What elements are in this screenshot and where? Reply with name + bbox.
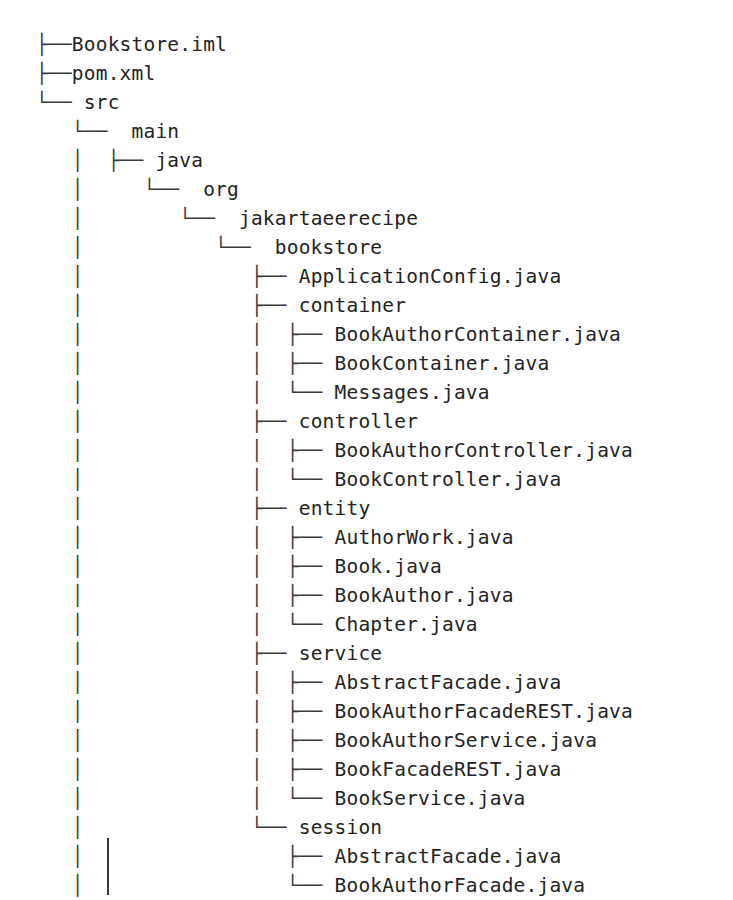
tree-node-file[interactable]: │ │ ├── BookAuthorController.java <box>36 436 633 465</box>
tree-node-label: BookAuthorFacadeREST.java <box>323 700 633 723</box>
tree-node-file[interactable]: │ │ ├── Book.java <box>36 552 442 581</box>
tree-node-label: AbstractFacade.java <box>323 671 562 694</box>
tree-node-file[interactable]: │ │ └── BookController.java <box>36 465 561 494</box>
tree-node-label: AbstractFacade.java <box>323 845 562 868</box>
tree-connector: │ │ ├── <box>36 729 323 752</box>
tree-node-file[interactable]: │ ├── ApplicationConfig.java <box>36 262 561 291</box>
tree-connector: │ └── <box>36 816 287 839</box>
tree-node-label: BookService.java <box>323 787 526 810</box>
tree-node-label: BookAuthorController.java <box>323 439 633 462</box>
tree-connector: │ ├── <box>36 845 323 868</box>
tree-node-directory[interactable]: │ └── org <box>36 175 239 204</box>
tree-node-directory[interactable]: │ ├── java <box>36 146 203 175</box>
tree-node-label: Chapter.java <box>323 613 478 636</box>
tree-connector: │ └── <box>36 178 179 201</box>
tree-node-label: BookController.java <box>323 468 562 491</box>
tree-node-file[interactable]: │ │ ├── AuthorWork.java <box>36 523 514 552</box>
tree-node-directory[interactable]: │ ├── container <box>36 291 406 320</box>
tree-node-label: Messages.java <box>323 381 490 404</box>
tree-node-file[interactable]: │ │ └── Chapter.java <box>36 610 478 639</box>
tree-connector: │ │ ├── <box>36 671 323 694</box>
tree-node-directory[interactable]: │ └── jakartaeerecipe <box>36 204 418 233</box>
tree-node-label: session <box>287 816 383 839</box>
tree-connector: │ ├── <box>36 497 287 520</box>
tree-node-label: service <box>287 642 383 665</box>
tree-connector: │ │ ├── <box>36 526 323 549</box>
tree-node-directory[interactable]: │ └── bookstore <box>36 233 382 262</box>
tree-node-directory[interactable]: │ └── session <box>36 813 382 842</box>
tree-node-label: AuthorWork.java <box>323 526 514 549</box>
tree-node-label: src <box>72 91 120 114</box>
tree-node-label: ApplicationConfig.java <box>287 265 562 288</box>
tree-node-directory[interactable]: │ ├── controller <box>36 407 418 436</box>
tree-connector: │ └── <box>36 207 215 230</box>
tree-node-label: BookAuthorFacade.java <box>323 874 586 897</box>
tree-node-file[interactable]: │ │ ├── BookAuthorService.java <box>36 726 597 755</box>
tree-connector: │ │ ├── <box>36 555 323 578</box>
tree-node-file[interactable]: │ │ ├── BookAuthorFacadeREST.java <box>36 697 633 726</box>
tree-connector: │ │ ├── <box>36 352 323 375</box>
tree-connector: │ │ └── <box>36 381 323 404</box>
tree-connector: │ │ └── <box>36 468 323 491</box>
tree-node-label: pom.xml <box>72 62 156 85</box>
tree-connector: │ │ ├── <box>36 758 323 781</box>
tree-connector: │ │ ├── <box>36 323 323 346</box>
tree-node-label: BookContainer.java <box>323 352 550 375</box>
tree-node-directory[interactable]: └── main <box>36 117 179 146</box>
tree-connector: └── <box>36 120 108 143</box>
tree-node-file[interactable]: │ │ └── Messages.java <box>36 378 490 407</box>
tree-node-file[interactable]: │ └── BookAuthorFacade.java <box>36 871 585 900</box>
tree-connector: │ │ ├── <box>36 439 323 462</box>
tree-node-directory[interactable]: │ ├── service <box>36 639 382 668</box>
tree-node-file[interactable]: │ │ ├── AbstractFacade.java <box>36 668 561 697</box>
tree-connector: │ ├── <box>36 265 287 288</box>
tree-node-file[interactable]: │ ├── AbstractFacade.java <box>36 842 561 871</box>
tree-node-directory[interactable]: │ ├── entity <box>36 494 370 523</box>
tree-node-label: BookAuthorContainer.java <box>323 323 622 346</box>
tree-node-label: java <box>143 149 203 172</box>
tree-node-label: container <box>287 294 406 317</box>
tree-node-file[interactable]: │ │ └── BookService.java <box>36 784 526 813</box>
tree-connector: │ │ ├── <box>36 700 323 723</box>
tree-connector: └── <box>36 91 72 114</box>
tree-connector: ├── <box>36 62 72 85</box>
tree-connector: │ └── <box>36 874 323 897</box>
tree-connector: ├── <box>36 33 72 56</box>
tree-node-label: org <box>179 178 239 201</box>
tree-connector: │ ├── <box>36 294 287 317</box>
tree-connector: │ ├── <box>36 410 287 433</box>
tree-node-label: main <box>108 120 180 143</box>
tree-node-label: bookstore <box>251 236 382 259</box>
tree-node-label: Bookstore.iml <box>72 33 227 56</box>
tree-node-label: entity <box>287 497 371 520</box>
tree-node-label: Book.java <box>323 555 442 578</box>
tree-connector: │ │ └── <box>36 787 323 810</box>
tree-connector: │ ├── <box>36 149 143 172</box>
tree-connector: │ │ └── <box>36 613 323 636</box>
tree-node-file[interactable]: │ │ ├── BookAuthorContainer.java <box>36 320 621 349</box>
tree-node-directory[interactable]: └── src <box>36 88 120 117</box>
tree-connector: │ └── <box>36 236 251 259</box>
tree-node-file[interactable]: ├──pom.xml <box>36 59 155 88</box>
tree-node-file[interactable]: │ │ ├── BookContainer.java <box>36 349 549 378</box>
tree-node-label: controller <box>287 410 418 433</box>
tree-node-label: jakartaeerecipe <box>215 207 418 230</box>
tree-node-label: BookFacadeREST.java <box>323 758 562 781</box>
tree-node-label: BookAuthorService.java <box>323 729 598 752</box>
tree-node-file[interactable]: ├──Bookstore.iml <box>36 30 227 59</box>
tree-node-file[interactable]: │ │ ├── BookFacadeREST.java <box>36 755 561 784</box>
tree-connector: │ ├── <box>36 642 287 665</box>
tree-connector: │ │ ├── <box>36 584 323 607</box>
tree-node-label: BookAuthor.java <box>323 584 514 607</box>
tree-node-file[interactable]: │ │ ├── BookAuthor.java <box>36 581 514 610</box>
